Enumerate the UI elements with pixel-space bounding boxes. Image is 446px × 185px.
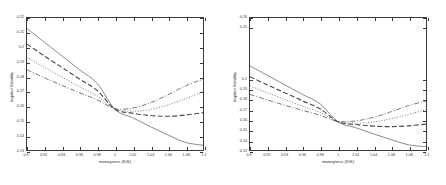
x-tick-label: 1.04	[370, 153, 377, 157]
y-tick-label: 0.19	[11, 60, 24, 64]
x-tick-label: 0.98	[94, 153, 101, 157]
y-tick-label: 0.17	[234, 108, 247, 112]
y-axis-title-right: Implied Volatility	[232, 72, 237, 102]
y-tick-label: 0.13	[11, 149, 24, 153]
x-axis-title-right: moneyness (K/S)	[322, 159, 354, 164]
curve-layer	[250, 18, 426, 150]
x-tick-label: 0.9	[246, 153, 251, 157]
series-line-solid	[250, 66, 426, 147]
x-tick-label: 0.94	[58, 153, 65, 157]
x-tick-label: 0.92	[40, 153, 47, 157]
x-tick-label: 0.92	[263, 153, 270, 157]
x-tick-label: 0.9	[23, 153, 28, 157]
y-tick-label: 0.14	[234, 139, 247, 143]
figure-container: 0.90.920.940.960.9811.021.041.061.081.1 …	[0, 0, 446, 185]
x-tick-label: 0.94	[281, 153, 288, 157]
x-tick-label: 1.02	[352, 153, 359, 157]
series-line-dotted	[250, 86, 426, 123]
y-tick-label: 0.26	[234, 15, 247, 19]
y-tick-label: 0.16	[234, 118, 247, 122]
y-tick-label: 0.25	[234, 25, 247, 29]
series-line-dotted	[27, 57, 203, 111]
y-tick-label: 0.14	[11, 134, 24, 138]
x-axis-title-left: moneyness (K/S)	[99, 159, 131, 164]
chart-panel-left: 0.90.920.940.960.9811.021.041.061.081.1 …	[0, 0, 223, 185]
y-tick-label: 0.13	[234, 149, 247, 153]
x-tick-label: 1.1	[201, 153, 206, 157]
y-tick-label: 0.15	[11, 119, 24, 123]
plot-area-left	[26, 17, 204, 151]
series-line-solid	[27, 29, 203, 146]
x-tick-label: 0.96	[299, 153, 306, 157]
x-tick-top	[428, 18, 429, 21]
series-line-dashed	[27, 44, 203, 116]
y-tick-label: 0.2	[11, 45, 24, 49]
plot-area-right	[249, 17, 427, 151]
x-tick-label: 1.04	[147, 153, 154, 157]
series-line-dashdot	[250, 94, 426, 121]
x-tick-label: 1	[337, 153, 339, 157]
series-line-dashdot	[27, 70, 203, 110]
series-line-dashed	[250, 77, 426, 127]
x-tick-label: 1.06	[388, 153, 395, 157]
x-tick-label: 1.06	[165, 153, 172, 157]
curve-layer	[27, 18, 203, 150]
x-tick-label: 0.98	[317, 153, 324, 157]
y-tick-label: 0.15	[234, 128, 247, 132]
chart-panel-right: 0.90.920.940.960.9811.021.041.061.081.1 …	[223, 0, 446, 185]
x-tick-label: 1.1	[424, 153, 429, 157]
x-tick-label: 0.96	[76, 153, 83, 157]
x-tick-label: 1.08	[406, 153, 413, 157]
x-tick-top	[205, 18, 206, 21]
y-axis-title-left: Implied Volatility	[9, 72, 14, 102]
y-tick-label: 0.21	[11, 30, 24, 34]
y-tick-label: 0.22	[11, 15, 24, 19]
x-tick	[205, 147, 206, 150]
x-tick-label: 1.02	[129, 153, 136, 157]
y-tick-label: 0.16	[11, 104, 24, 108]
x-tick-label: 1.08	[183, 153, 190, 157]
x-tick	[428, 147, 429, 150]
x-tick-label: 1	[114, 153, 116, 157]
